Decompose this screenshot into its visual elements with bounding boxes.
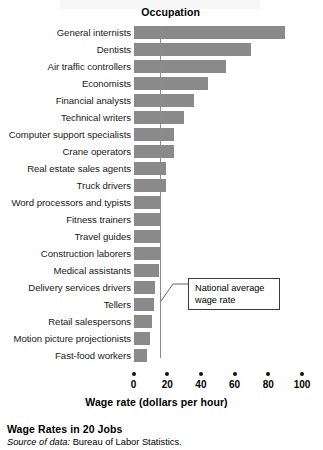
category-label: Travel guides	[74, 230, 131, 243]
chart-row: Dentists	[0, 43, 323, 60]
bar	[134, 43, 252, 56]
chart-row: Air traffic controllers	[0, 60, 323, 77]
chart-row: General internists	[0, 26, 323, 43]
category-label: Tellers	[104, 298, 131, 311]
category-label: Construction laborers	[41, 247, 131, 260]
chart-row: Retail salespersons	[0, 315, 323, 332]
bar	[134, 94, 195, 107]
chart-row: Crane operators	[0, 145, 323, 162]
bar	[134, 60, 227, 73]
bar	[134, 26, 286, 39]
category-label: Technical writers	[61, 111, 131, 124]
bar	[134, 213, 161, 226]
category-label: Delivery services drivers	[28, 281, 131, 294]
x-tick-marker	[266, 372, 270, 376]
x-tick-marker	[300, 372, 304, 376]
figure-source: Source of data: Bureau of Labor Statisti…	[7, 437, 182, 447]
bar	[134, 315, 153, 328]
category-label: Air traffic controllers	[48, 60, 131, 73]
x-tick-label: 60	[229, 379, 240, 390]
bar	[134, 332, 151, 345]
bar	[134, 77, 208, 90]
category-label: Motion picture projectionists	[14, 332, 131, 345]
bar	[134, 264, 159, 277]
bar	[134, 145, 174, 158]
category-label: Economists	[82, 77, 131, 90]
chart-row: Financial analysts	[0, 94, 323, 111]
category-label: Dentists	[97, 43, 131, 56]
category-label: Truck drivers	[77, 179, 131, 192]
chart-row: Fitness trainers	[0, 213, 323, 230]
chart-row: Word processors and typists	[0, 196, 323, 213]
x-tick-label: 80	[263, 379, 274, 390]
chart-row: Technical writers	[0, 111, 323, 128]
chart-row: Truck drivers	[0, 179, 323, 196]
bar	[134, 281, 156, 294]
chart-plot-area: General internistsDentistsAir traffic co…	[0, 26, 323, 371]
chart-row: Construction laborers	[0, 247, 323, 264]
category-label: Crane operators	[62, 145, 131, 158]
category-label: Computer support specialists	[9, 128, 131, 141]
figure-title: Wage Rates in 20 Jobs	[7, 423, 123, 435]
occupation-column-header: Occupation	[0, 6, 200, 18]
bar	[134, 128, 174, 141]
category-label: Real estate sales agents	[27, 162, 131, 175]
callout-line-2: wage rate	[195, 295, 274, 307]
x-axis-title: Wage rate (dollars per hour)	[0, 396, 313, 408]
bar	[134, 230, 161, 243]
chart-row: Fast-food workers	[0, 349, 323, 366]
x-tick-marker	[199, 372, 203, 376]
source-value: Bureau of Labor Statistics.	[73, 437, 182, 447]
bar	[134, 111, 185, 124]
category-label: Retail salespersons	[48, 315, 131, 328]
chart-row: Computer support specialists	[0, 128, 323, 145]
category-label: Financial analysts	[56, 94, 131, 107]
category-label: Fast-food workers	[55, 349, 131, 362]
x-tick-marker	[233, 372, 237, 376]
x-tick-marker	[165, 372, 169, 376]
x-tick-marker	[132, 372, 136, 376]
x-tick-label: 100	[294, 379, 311, 390]
national-average-callout: National average wage rate	[188, 278, 280, 310]
chart-row: Economists	[0, 77, 323, 94]
bar	[134, 196, 161, 209]
bar	[134, 349, 147, 362]
category-label: General internists	[57, 26, 131, 39]
source-label: Source of data:	[7, 437, 70, 447]
x-tick-label: 40	[195, 379, 206, 390]
category-label: Fitness trainers	[66, 213, 131, 226]
bar	[134, 247, 161, 260]
x-tick-label: 0	[131, 379, 137, 390]
bar	[134, 298, 154, 311]
chart-row: Motion picture projectionists	[0, 332, 323, 349]
category-label: Medical assistants	[54, 264, 131, 277]
x-tick-label: 20	[162, 379, 173, 390]
category-label: Word processors and typists	[11, 196, 131, 209]
chart-row: Travel guides	[0, 230, 323, 247]
callout-line-1: National average	[195, 283, 274, 295]
wage-rates-bar-chart-figure: Occupation General internistsDentistsAir…	[0, 0, 323, 450]
chart-row: Real estate sales agents	[0, 162, 323, 179]
national-average-reference-line	[160, 26, 161, 358]
